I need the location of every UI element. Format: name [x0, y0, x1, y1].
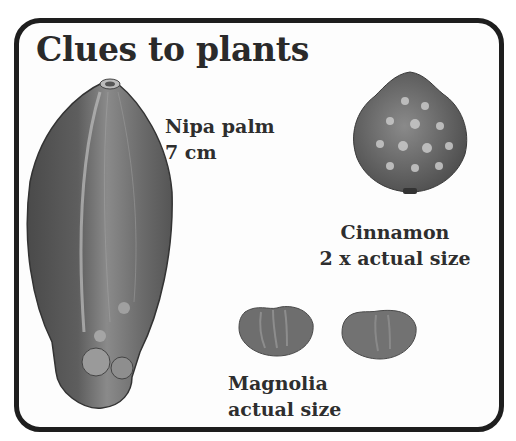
nipa-palm-name: Nipa palm [165, 113, 275, 139]
figure-title: Clues to plants [36, 30, 309, 69]
nipa-palm-label: Nipa palm 7 cm [165, 113, 275, 165]
magnolia-seed-illustration-right [338, 305, 420, 361]
nipa-palm-scale: 7 cm [165, 139, 275, 165]
nipa-palm-fruit-illustration [22, 72, 182, 422]
cinnamon-fruit-illustration [345, 66, 475, 196]
magnolia-seed-illustration-left [235, 302, 317, 358]
magnolia-scale: actual size [228, 396, 341, 422]
cinnamon-scale: 2 x actual size [300, 245, 490, 271]
magnolia-label: Magnolia actual size [228, 370, 341, 422]
cinnamon-label: Cinnamon 2 x actual size [300, 219, 490, 271]
cinnamon-name: Cinnamon [300, 219, 490, 245]
magnolia-name: Magnolia [228, 370, 341, 396]
